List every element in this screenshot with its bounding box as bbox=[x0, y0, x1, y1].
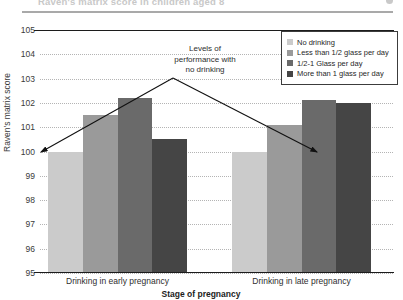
x-axis-group-label: Drinking in early pregnancy bbox=[66, 276, 169, 286]
bar bbox=[118, 98, 153, 273]
legend-item[interactable]: Less than 1/2 glass per day bbox=[287, 48, 393, 57]
legend-swatch-icon bbox=[287, 71, 293, 77]
chart-legend: No drinkingLess than 1/2 glass per day1/… bbox=[281, 31, 398, 85]
legend-item-label: 1/2-1 Glass per day bbox=[297, 59, 362, 68]
header-divider bbox=[22, 11, 393, 13]
bar bbox=[232, 152, 267, 274]
y-axis-tick-label: 96 bbox=[26, 244, 35, 254]
bar bbox=[83, 115, 118, 273]
y-axis-tick-label: 99 bbox=[26, 171, 35, 181]
legend-item[interactable]: More than 1 glass per day bbox=[287, 69, 393, 78]
legend-swatch-icon bbox=[287, 60, 293, 66]
gridline bbox=[40, 273, 393, 274]
legend-swatch-icon bbox=[287, 50, 293, 56]
bar bbox=[302, 100, 337, 273]
legend-item[interactable]: 1/2-1 Glass per day bbox=[287, 59, 393, 68]
page-header: Raven's matrix score in children aged 8 bbox=[0, 0, 403, 14]
legend-item-label: No drinking bbox=[297, 38, 335, 47]
y-axis-tick-label: 105 bbox=[21, 25, 35, 35]
header-title: Raven's matrix score in children aged 8 bbox=[38, 0, 224, 7]
y-axis-tick-label: 100 bbox=[21, 147, 35, 157]
legend-item-label: More than 1 glass per day bbox=[297, 69, 384, 78]
legend-item-label: Less than 1/2 glass per day bbox=[297, 48, 389, 57]
annotation-line-1: Levels of bbox=[174, 44, 235, 55]
logo-dot-icon bbox=[386, 0, 393, 4]
y-axis-tick-label: 95 bbox=[26, 268, 35, 278]
y-axis-tick-label: 102 bbox=[21, 98, 35, 108]
x-axis-line bbox=[34, 272, 394, 273]
y-axis-tick-label: 103 bbox=[21, 74, 35, 84]
y-axis-tick-label: 101 bbox=[21, 122, 35, 132]
y-axis-tick-label: 97 bbox=[26, 219, 35, 229]
bar bbox=[267, 125, 302, 273]
annotation-text: Levels of performance with no drinking bbox=[174, 44, 235, 76]
bar bbox=[336, 103, 371, 273]
y-axis-title: Raven's matrix score bbox=[2, 73, 12, 152]
y-axis-tick-label: 104 bbox=[21, 49, 35, 59]
annotation-line-3: no drinking bbox=[174, 65, 235, 76]
x-axis-title: Stage of pregnancy bbox=[162, 289, 241, 299]
legend-swatch-icon bbox=[287, 39, 293, 45]
legend-item[interactable]: No drinking bbox=[287, 38, 393, 47]
x-axis-group-label: Drinking in late pregnancy bbox=[252, 276, 350, 286]
bar bbox=[48, 152, 83, 274]
annotation-line-2: performance with bbox=[174, 55, 235, 66]
bar bbox=[152, 139, 187, 273]
y-axis-tick-label: 98 bbox=[26, 195, 35, 205]
